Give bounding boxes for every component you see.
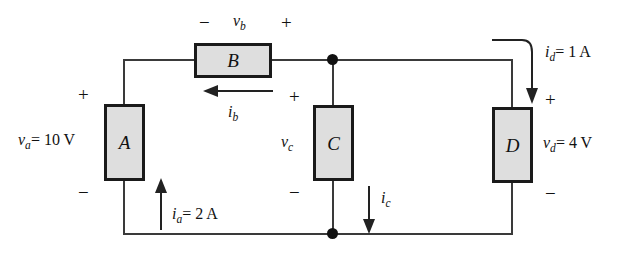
block-d-label: D [506, 136, 520, 155]
ib-sub: b [232, 111, 238, 123]
block-a[interactable]: A [104, 104, 145, 181]
wire-c-bottom [332, 179, 334, 234]
wire-a-bottom [123, 179, 125, 234]
va-value: = 10 V [31, 131, 75, 148]
block-b[interactable]: B [194, 43, 272, 78]
wire-node-to-right [333, 59, 513, 61]
vd-minus-sign: − [545, 184, 556, 203]
va-label: va= 10 V [18, 132, 75, 152]
ib-arrow [203, 84, 275, 98]
wire-c-top [332, 59, 334, 106]
ib-label: ib [228, 104, 238, 124]
va-minus-sign: − [78, 183, 89, 202]
circuit-diagram-canvas: A B C D − vb + ib + va= 10 V − ia= 2 A +… [0, 0, 632, 263]
vc-label: vc [281, 134, 293, 154]
vd-label: vd= 4 V [543, 135, 592, 155]
ic-arrow [362, 186, 376, 234]
junction-dot-bottom [327, 228, 338, 239]
ia-arrow [154, 178, 168, 230]
id-arrow [490, 34, 546, 106]
vd-plus-sign: + [545, 90, 556, 109]
vb-plus-sign: + [281, 13, 292, 32]
ia-label: ia= 2 A [172, 206, 218, 226]
wire-d-bottom [511, 182, 513, 234]
vb-minus-sign: − [199, 13, 210, 32]
vc-plus-sign: + [289, 87, 300, 106]
va-plus-sign: + [78, 85, 89, 104]
id-label: id= 1 A [545, 44, 591, 64]
block-a-label: A [119, 133, 131, 152]
block-b-label: B [227, 51, 239, 70]
vd-value: = 4 V [556, 134, 592, 151]
vc-minus-sign: − [289, 183, 300, 202]
wire-a-top [123, 59, 125, 105]
vb-sub: b [240, 20, 246, 32]
vc-sub: c [288, 141, 293, 153]
vb-label: vb [233, 13, 246, 33]
junction-dot-top [327, 54, 338, 65]
wire-top-left [123, 59, 197, 61]
ic-label: ic [381, 190, 391, 210]
id-value: = 1 A [555, 43, 591, 60]
block-c[interactable]: C [313, 105, 354, 181]
wire-bottom-rail [123, 233, 513, 235]
ic-sub: c [385, 197, 390, 209]
block-d[interactable]: D [492, 107, 533, 183]
ia-value: = 2 A [182, 205, 218, 222]
block-c-label: C [327, 134, 340, 153]
